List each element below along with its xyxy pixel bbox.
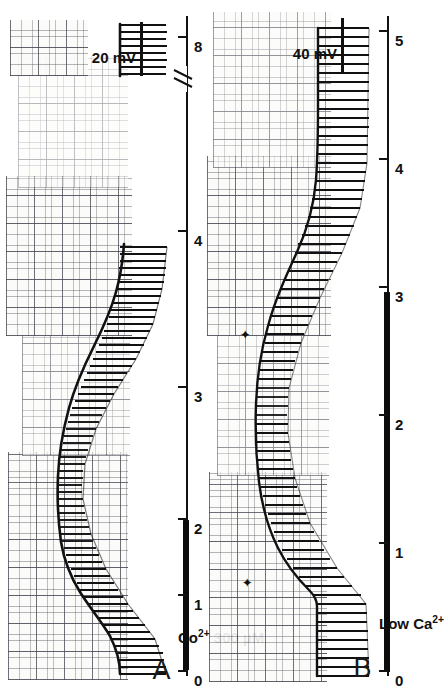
calibration-label-b: 40 mV	[293, 45, 337, 62]
drug-label-b: Low Ca2+	[379, 614, 444, 632]
tick-label-b-1: 1	[395, 544, 403, 561]
calibration-bar-b	[341, 18, 344, 72]
arrow-marker-1: ✦	[241, 577, 254, 588]
tick-a-4	[178, 230, 187, 232]
calibration-bar-a	[140, 22, 143, 76]
tick-b-3	[379, 286, 388, 288]
panel-a: 20 mV A Co2+ 300 µM 0 1 2 3 4	[0, 0, 199, 688]
panel-a-letter: A	[152, 655, 170, 686]
tick-label-b-2: 2	[395, 416, 403, 433]
tick-b-4	[379, 158, 388, 160]
tick-b-0	[379, 670, 388, 672]
trace-b	[199, 0, 399, 688]
calibration-label-a: 20 mV	[92, 49, 136, 66]
axis-break-a	[172, 66, 194, 92]
tick-label-b-3: 3	[395, 288, 403, 305]
tick-a-3	[178, 386, 187, 388]
panel-b: ✦ ✦ 40 mV B Low Ca2+ 0 1 2 3 4 5	[199, 0, 399, 688]
tick-a-1	[178, 594, 187, 596]
tick-a-0	[178, 670, 187, 672]
tick-a-8	[178, 36, 187, 38]
arrow-marker-2: ✦	[239, 329, 252, 340]
panel-b-letter: B	[353, 653, 371, 684]
tick-label-b-5: 5	[395, 32, 403, 49]
tick-b-1	[379, 542, 388, 544]
tick-label-b-4: 4	[395, 160, 403, 177]
trace-a	[0, 0, 199, 688]
tick-b-2	[379, 414, 388, 416]
tick-label-b-0: 0	[395, 672, 403, 688]
tick-a-2	[178, 518, 187, 520]
tick-b-5	[379, 30, 388, 32]
